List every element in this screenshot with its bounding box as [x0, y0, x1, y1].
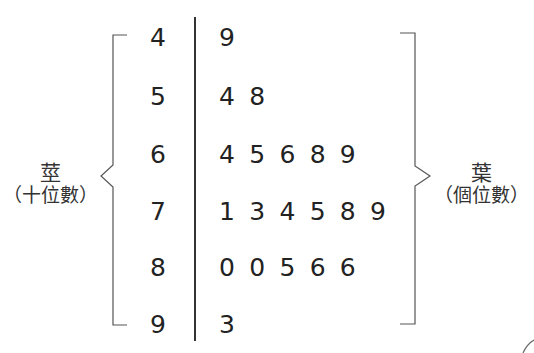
stem-label: 莖 （十位數）: [0, 162, 100, 206]
stem-value: 4: [146, 23, 170, 53]
leaf-label-title: 葉: [428, 162, 534, 184]
leaf-value: 8: [336, 197, 360, 227]
leaf-value: 0: [215, 253, 239, 283]
leaf-value: 5: [275, 253, 299, 283]
leaf-value: 6: [336, 253, 360, 283]
stem-value: 6: [146, 140, 170, 170]
leaf-value: 4: [275, 197, 299, 227]
stem-value: 5: [146, 82, 170, 112]
leaf-value: 6: [275, 140, 299, 170]
leaf-value: 3: [215, 310, 239, 340]
stem-leaf-divider: [194, 17, 196, 341]
stem-value: 8: [146, 253, 170, 283]
leaf-value: 6: [306, 253, 330, 283]
leaf-value: 1: [215, 197, 239, 227]
leaf-bracket: [400, 33, 430, 324]
stem-bracket: [101, 35, 127, 325]
leaf-value: 4: [215, 82, 239, 112]
leaf-value: 8: [245, 82, 269, 112]
leaf-label: 葉 （個位數）: [428, 162, 534, 206]
leaf-value: 5: [306, 197, 330, 227]
stem-label-title: 莖: [0, 162, 100, 184]
leaf-value: 9: [366, 197, 390, 227]
leaf-value: 5: [245, 140, 269, 170]
leaf-value: 8: [306, 140, 330, 170]
leaf-label-subtitle: （個位數）: [434, 184, 529, 206]
stem-value: 7: [146, 197, 170, 227]
leaf-value: 4: [215, 140, 239, 170]
leaf-value: 9: [215, 23, 239, 53]
leaf-value: 0: [245, 253, 269, 283]
stem-value: 9: [146, 310, 170, 340]
leaf-value: 9: [336, 140, 360, 170]
corner-arc-decoration: [523, 340, 534, 353]
stem-label-subtitle: （十位數）: [3, 184, 98, 206]
leaf-value: 3: [245, 197, 269, 227]
